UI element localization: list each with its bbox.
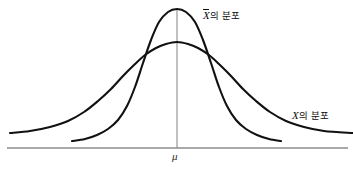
mean-marker-label: μ bbox=[172, 151, 178, 162]
xbar-distribution-label: X의 분포 bbox=[203, 9, 240, 21]
x-distribution-label: X의 분포 bbox=[292, 110, 329, 121]
xbar-distribution-suffix: 의 분포 bbox=[210, 10, 240, 21]
x-distribution-suffix: 의 분포 bbox=[299, 110, 329, 121]
x-symbol: X bbox=[292, 109, 299, 121]
distribution-plot bbox=[0, 0, 353, 171]
xbar-symbol: X bbox=[203, 9, 210, 21]
distribution-comparison-figure: X의 분포 X의 분포 μ bbox=[0, 0, 353, 171]
